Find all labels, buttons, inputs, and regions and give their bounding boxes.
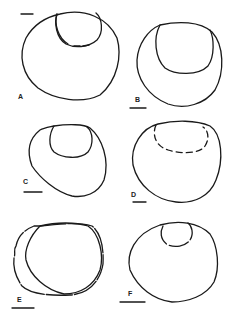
panel-f-outline (129, 222, 217, 302)
panel-label-e: E (17, 296, 22, 303)
panel-label-d: D (131, 191, 136, 198)
panel-d-outline (133, 121, 221, 202)
panel-b-outline (137, 23, 222, 107)
panel-label-c: C (23, 178, 28, 185)
panel-label-a: A (18, 93, 23, 100)
panel-label-b: B (135, 96, 140, 103)
figure-canvas (0, 0, 235, 319)
panel-label-f: F (128, 290, 132, 297)
panel-c-outline (29, 125, 106, 197)
panel-e-outline (14, 223, 103, 295)
panel-a-outline (22, 12, 119, 100)
